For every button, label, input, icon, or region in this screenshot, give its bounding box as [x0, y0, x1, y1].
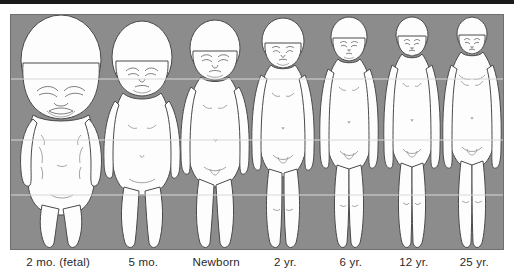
figure-newborn: [181, 20, 249, 248]
age-label-newborn: Newborn: [180, 252, 252, 274]
growth-diagram: 2 mo. (fetal) 5 mo. Newborn 2 yr. 6 yr. …: [0, 4, 514, 274]
age-label-6yr: 6 yr.: [319, 252, 383, 274]
age-label-12yr: 12 yr.: [383, 252, 445, 274]
figure-2mo-fetal: [21, 15, 102, 248]
figures-svg: [11, 15, 503, 249]
figure-2yr: [252, 18, 314, 248]
figure-6yr: [320, 17, 378, 248]
age-label-2yr: 2 yr.: [252, 252, 319, 274]
age-label-5mo: 5 mo.: [106, 252, 180, 274]
figure-25yr: [443, 17, 501, 248]
figure-5mo: [104, 21, 180, 248]
age-labels-row: 2 mo. (fetal) 5 mo. Newborn 2 yr. 6 yr. …: [10, 252, 504, 274]
figures-panel: [10, 14, 504, 250]
age-label-2mo-fetal: 2 mo. (fetal): [10, 252, 106, 274]
age-label-25yr: 25 yr.: [445, 252, 504, 274]
figure-12yr: [384, 17, 440, 248]
